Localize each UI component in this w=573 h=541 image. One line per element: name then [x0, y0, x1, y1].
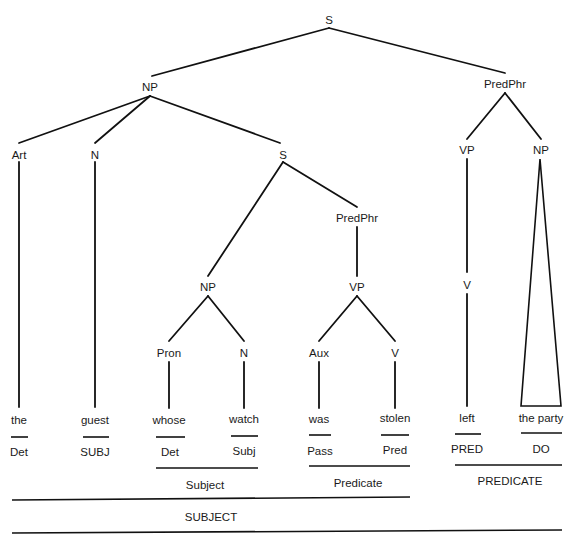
- edge-srel-predphr: [283, 162, 357, 207]
- function-label: Det: [161, 446, 180, 458]
- function-label: Pass: [307, 445, 333, 457]
- main-predicate-label: PREDICATE: [478, 475, 543, 487]
- leaf-word: whose: [151, 414, 185, 426]
- tree-edges: [19, 28, 561, 408]
- syntax-tree-diagram: S NP PredPhr Art N S VP NP PredPhr NP VP…: [0, 0, 573, 541]
- node-n-main: N: [91, 149, 99, 161]
- node-n-rel: N: [240, 347, 248, 359]
- node-vp-rel: VP: [349, 281, 365, 293]
- node-s-rel: S: [279, 149, 287, 161]
- edge-np-n-rel: [208, 296, 244, 341]
- leaf-word: watch: [228, 413, 259, 425]
- tree-nodes: S NP PredPhr Art N S VP NP PredPhr NP VP…: [12, 14, 550, 359]
- edge-vp-v: [357, 296, 395, 341]
- node-np-main: NP: [142, 81, 158, 93]
- function-label: SUBJ: [80, 446, 109, 458]
- function-label: Pred: [383, 444, 407, 456]
- edge-s-predphr: [329, 28, 505, 73]
- function-labels: Det SUBJ Det Subj Pass Pred PRED DO: [10, 443, 550, 458]
- rel-subject-label: Subject: [186, 479, 225, 491]
- node-art: Art: [12, 149, 28, 161]
- leaf-word: left: [459, 412, 475, 424]
- leaf-word: guest: [81, 414, 110, 426]
- leaf-word: stolen: [380, 412, 411, 424]
- function-label: DO: [532, 443, 549, 455]
- node-v-rel: V: [391, 347, 399, 359]
- function-label: Det: [10, 446, 29, 458]
- rel-predicate-label: Predicate: [334, 477, 383, 489]
- node-np-rel: NP: [200, 281, 216, 293]
- leaf-word: the party: [519, 412, 564, 424]
- node-s-root: S: [325, 14, 333, 26]
- node-pron: Pron: [157, 347, 181, 359]
- node-predphr-main: PredPhr: [484, 78, 526, 90]
- function-label: Subj: [232, 445, 255, 457]
- node-vp-main: VP: [459, 144, 475, 156]
- edge-s-np: [152, 28, 329, 76]
- leaf-word: was: [308, 413, 330, 425]
- edge-srel-np: [208, 162, 283, 276]
- np-triangle-abbreviation: [521, 159, 561, 406]
- edge-predphr-vp-main: [467, 93, 505, 139]
- edge-np-art: [19, 96, 150, 143]
- main-subject-label: SUBJECT: [185, 511, 237, 523]
- edge-np-n: [95, 96, 150, 143]
- function-label: PRED: [451, 443, 483, 455]
- main-subject-top-bar: [12, 497, 410, 500]
- edge-vp-aux: [319, 296, 357, 341]
- groupings: Subject Predicate PREDICATE SUBJECT: [12, 465, 562, 533]
- node-predphr-rel: PredPhr: [336, 212, 378, 224]
- edge-np-s: [150, 96, 280, 143]
- node-v-main: V: [463, 279, 471, 291]
- edge-predphr-np-obj: [505, 93, 541, 139]
- leaf-words: the guest whose watch was stolen left th…: [11, 412, 564, 426]
- node-aux: Aux: [309, 347, 329, 359]
- node-np-obj: NP: [533, 144, 549, 156]
- sentence-bottom-bar: [12, 530, 562, 533]
- leaf-bars: [11, 433, 562, 437]
- leaf-word: the: [11, 414, 27, 426]
- edge-np-pron: [169, 296, 208, 341]
